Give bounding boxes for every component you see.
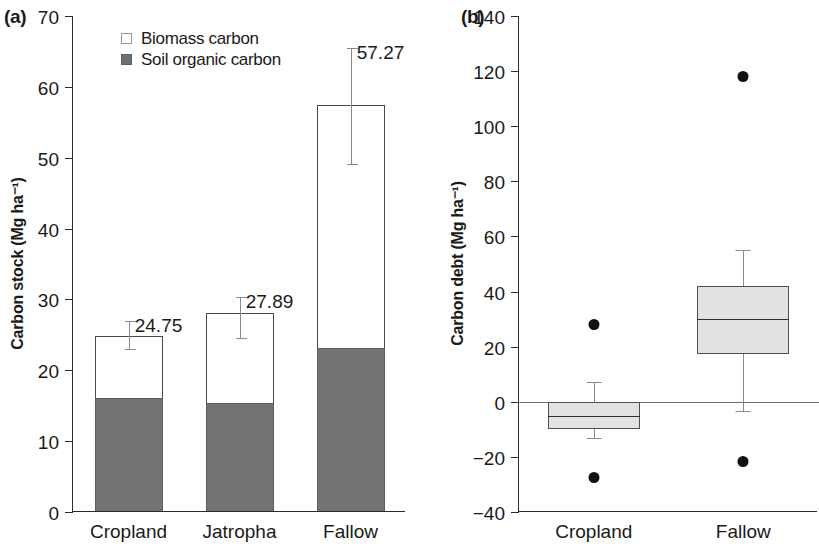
y-tick: 40	[65, 229, 73, 230]
y-tick-label: 80	[484, 173, 505, 192]
y-tick: 10	[65, 441, 73, 442]
y-tick: 140	[511, 16, 519, 17]
panel-a-plot-area: Carbon stock (Mg ha⁻¹) 010203040506070 2…	[72, 16, 405, 512]
y-tick: 20	[65, 370, 73, 371]
y-tick: 60	[511, 236, 519, 237]
panel-a-tag: (a)	[4, 6, 26, 28]
y-tick-label: 60	[484, 228, 505, 247]
panel-a-legend: Biomass carbon Soil organic carbon	[121, 28, 281, 70]
y-tick-label: −40	[473, 504, 505, 523]
legend-item-soil-organic-carbon: Soil organic carbon	[121, 49, 281, 70]
panel-b-carbon-debt: (b) Carbon debt (Mg ha⁻¹) −40−2002040608…	[425, 0, 817, 548]
y-tick: 40	[511, 292, 519, 293]
legend-swatch-biomass-carbon	[121, 33, 132, 44]
panel-b-x-tick-labels: CroplandFallow	[519, 16, 817, 511]
y-tick: −20	[511, 457, 519, 458]
y-tick: 100	[511, 126, 519, 127]
x-tick-label: Fallow	[716, 522, 771, 541]
y-tick-label: 100	[473, 118, 505, 137]
y-tick-label: 50	[38, 149, 59, 168]
y-tick: 0	[65, 512, 73, 513]
y-tick: −40	[511, 512, 519, 513]
y-tick: 120	[511, 71, 519, 72]
panel-a-x-tick-labels: CroplandJatrophaFallow	[73, 16, 405, 511]
x-tick-label: Cropland	[90, 522, 167, 541]
y-tick-label: 40	[38, 220, 59, 239]
y-tick-label: 70	[38, 8, 59, 27]
y-tick: 50	[65, 158, 73, 159]
panel-a-y-axis-label: Carbon stock (Mg ha⁻¹)	[8, 153, 27, 373]
y-tick-label: 20	[484, 338, 505, 357]
x-tick-label: Jatropha	[203, 522, 277, 541]
y-tick: 20	[511, 347, 519, 348]
y-tick: 0	[511, 402, 519, 403]
y-tick-label: 20	[38, 362, 59, 381]
y-tick-label: 40	[484, 283, 505, 302]
legend-label-soil-organic-carbon: Soil organic carbon	[141, 51, 281, 68]
y-tick-label: 120	[473, 63, 505, 82]
y-tick: 80	[511, 181, 519, 182]
y-tick-label: 0	[48, 504, 59, 523]
x-tick-label: Cropland	[555, 522, 632, 541]
y-tick-label: 140	[473, 8, 505, 27]
y-tick: 70	[65, 16, 73, 17]
y-tick-label: −20	[473, 448, 505, 467]
panel-b-y-axis-label: Carbon debt (Mg ha⁻¹)	[448, 153, 467, 373]
y-tick: 60	[65, 87, 73, 88]
y-tick-label: 30	[38, 291, 59, 310]
y-tick: 30	[65, 299, 73, 300]
y-tick-label: 10	[38, 433, 59, 452]
y-tick-label: 0	[494, 393, 505, 412]
legend-swatch-soil-organic-carbon	[121, 54, 132, 65]
panel-b-plot-area: Carbon debt (Mg ha⁻¹) −40−20020406080100…	[518, 16, 817, 512]
legend-label-biomass-carbon: Biomass carbon	[141, 30, 259, 47]
panel-a-carbon-stock: (a) Carbon stock (Mg ha⁻¹) 0102030405060…	[0, 0, 425, 548]
y-tick-label: 60	[38, 78, 59, 97]
x-tick-label: Fallow	[323, 522, 378, 541]
legend-item-biomass-carbon: Biomass carbon	[121, 28, 281, 49]
